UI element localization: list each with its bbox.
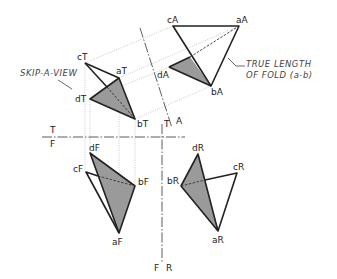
label-dA: dA [157,70,170,80]
front-view [86,153,135,233]
label-bR: bR [167,176,179,186]
fold-label-F2: F [154,263,159,273]
right-view [181,154,237,231]
label-bT: bT [137,119,149,129]
label-bA: bA [211,87,224,97]
drawing-svg: cT aT dT bT cA aA dA bA dF cF bF aF dR b… [0,0,337,279]
label-cT: cT [77,52,88,62]
fold-label-A: A [176,116,183,126]
label-aT: aT [116,66,128,76]
label-aR: aR [212,235,224,245]
true-length-note-2: OF FOLD (a-b) [246,70,313,80]
label-aF: aF [112,237,123,247]
label-cF: cF [73,164,83,174]
fold-label-T: T [49,125,56,135]
true-length-leader [228,58,245,66]
true-length-note-1: TRUE LENGTH [246,59,312,69]
skip-a-view-note: SKIP-A-VIEW [20,68,77,78]
fold-label-F: F [50,139,55,149]
skip-a-view-arrow [58,80,72,89]
label-dR: dR [192,143,204,153]
label-aA: aA [236,15,249,25]
auxiliary-view [169,26,239,86]
label-cA: cA [167,15,179,25]
descriptive-geometry-drawing: cT aT dT bT cA aA dA bA dF cF bF aF dR b… [0,0,337,279]
label-dF: dF [89,143,100,153]
label-dT: dT [75,94,87,104]
label-cR: cR [233,162,244,172]
fold-label-R: R [166,263,172,273]
top-view [85,63,135,119]
fold-label-T2: T [163,119,170,129]
label-bF: bF [138,177,149,187]
